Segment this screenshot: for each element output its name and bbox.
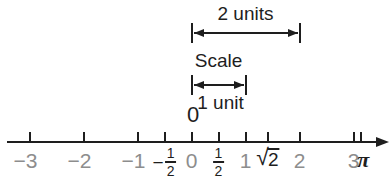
tick-mark	[218, 132, 220, 143]
tick-label: −12	[153, 146, 177, 178]
tick-mark	[164, 132, 166, 143]
one-unit-label: 1 unit	[197, 93, 243, 113]
tick-label: √2	[256, 148, 279, 169]
arrow-right-head-icon	[234, 81, 244, 89]
axis-right-arrowhead-icon	[376, 137, 389, 147]
tick-mark	[267, 132, 269, 143]
tick-label: 2	[294, 150, 306, 171]
tick-mark	[360, 132, 362, 143]
two-units-measure-arrow	[191, 23, 302, 43]
number-line-axis	[7, 141, 379, 143]
tick-mark	[191, 132, 193, 143]
arrow-right-head-icon	[288, 29, 298, 37]
tick-label: 12	[213, 146, 225, 178]
tick-label: π	[357, 149, 369, 171]
tick-mark	[299, 132, 301, 143]
tick-label: 1	[240, 150, 252, 171]
tick-label: −1	[122, 150, 146, 171]
arrow-right-endbar	[299, 23, 302, 43]
tick-label: 0	[186, 150, 198, 171]
scale-title: Scale	[195, 51, 243, 71]
tick-mark	[83, 132, 85, 143]
tick-mark	[137, 132, 139, 143]
number-line-figure: 2 units Scale 1 unit 0 −3−2−1−120121√223…	[0, 0, 392, 184]
tick-mark	[353, 132, 355, 143]
arrow-right-endbar	[245, 75, 248, 95]
tick-label: −3	[14, 150, 38, 171]
origin-zero-label: 0	[187, 105, 199, 125]
tick-mark	[29, 132, 31, 143]
arrow-shaft	[194, 32, 299, 34]
tick-label: −2	[68, 150, 92, 171]
two-units-label: 2 units	[218, 4, 274, 24]
tick-mark	[245, 132, 247, 143]
